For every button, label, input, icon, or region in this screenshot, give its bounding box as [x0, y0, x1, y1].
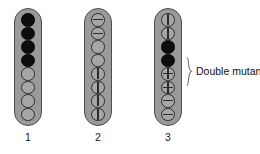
spore-vbar	[91, 81, 105, 95]
spore-cross	[161, 81, 175, 95]
spore-vbar	[161, 27, 175, 41]
spore-filled	[21, 27, 35, 41]
ascus-label-3: 3	[154, 131, 182, 143]
spore-open	[21, 67, 35, 81]
spore-filled	[161, 54, 175, 68]
spore-vbar	[161, 13, 175, 27]
spore-hbar	[91, 13, 105, 27]
ascus-3	[154, 8, 182, 126]
annotation-label: Double mutants (b f)	[196, 64, 260, 78]
spore-hbar	[91, 27, 105, 41]
spore-vbar	[91, 108, 105, 122]
ascus-label-2: 2	[84, 131, 112, 143]
ascus-label-1: 1	[14, 131, 42, 143]
spore-filled	[21, 13, 35, 27]
spore-filled	[161, 40, 175, 54]
annotation-prefix: Double mutants (	[196, 65, 260, 77]
spore-open	[21, 108, 35, 122]
spore-open	[91, 40, 105, 54]
ascus-2	[84, 8, 112, 126]
spore-vbar	[91, 94, 105, 108]
spore-hbar	[161, 108, 175, 122]
ascus-figure: 1 2 3 Double mutants (b f)	[0, 0, 260, 154]
spore-filled	[21, 40, 35, 54]
spore-open	[91, 54, 105, 68]
spore-open	[21, 81, 35, 95]
annotation-brace-icon	[186, 57, 193, 86]
ascus-1	[14, 8, 42, 126]
spore-cross	[161, 67, 175, 81]
spore-filled	[21, 54, 35, 68]
spore-open	[21, 94, 35, 108]
spore-hbar	[161, 94, 175, 108]
spore-vbar	[91, 67, 105, 81]
